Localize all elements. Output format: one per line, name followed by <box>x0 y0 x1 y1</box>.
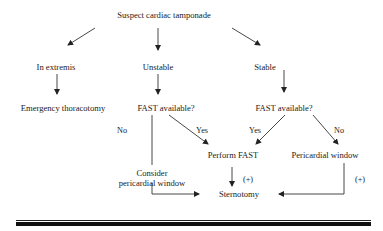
node-unstable: Unstable <box>143 62 174 72</box>
flowchart-canvas: Suspect cardiac tamponade In extremis Un… <box>0 0 383 231</box>
arrow-root-to-in-extremis <box>68 28 95 45</box>
bottom-rule-thin <box>16 220 371 221</box>
arrow-root-to-stable <box>232 28 260 45</box>
edge-label-pericardial-window-positive: (+) <box>355 175 365 185</box>
edge-label-stable-yes: Yes <box>249 126 261 136</box>
bottom-rule-thick <box>16 222 371 226</box>
node-stable: Stable <box>254 62 275 72</box>
node-in-extremis: In extremis <box>37 62 76 72</box>
edge-label-stable-no: No <box>334 126 344 136</box>
edge-label-unstable-no: No <box>117 126 127 136</box>
node-consider-pericardial-window: Consider pericardial window <box>119 168 186 188</box>
edge-label-unstable-yes: Yes <box>196 126 208 136</box>
node-pericardial-window: Pericardial window <box>291 150 358 160</box>
node-fast-available-stable: FAST available? <box>255 103 312 113</box>
arrow-pericardial-window-to-sternotomy <box>279 163 344 194</box>
node-consider-line2: pericardial window <box>119 178 186 188</box>
flowchart-connectors <box>0 0 383 231</box>
edge-label-perform-fast-positive: (+) <box>243 175 253 185</box>
node-sternotomy: Sternotomy <box>219 189 259 199</box>
node-consider-line1: Consider <box>119 168 186 178</box>
node-fast-available-unstable: FAST available? <box>137 103 194 113</box>
node-suspect-cardiac-tamponade: Suspect cardiac tamponade <box>117 10 211 20</box>
node-perform-fast: Perform FAST <box>208 150 259 160</box>
node-emergency-thoracotomy: Emergency thoracotomy <box>21 103 106 113</box>
